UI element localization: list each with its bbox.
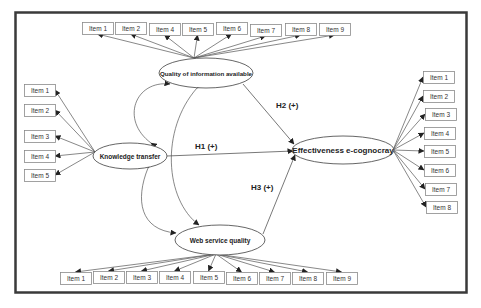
quality-loading-2 (131, 34, 195, 58)
item-label: Item 5 (431, 148, 449, 155)
quality-loading-4 (194, 35, 198, 58)
quality-loading-7 (194, 35, 301, 58)
item-label: Item 9 (326, 26, 344, 33)
web-indicator-item: Item 9 (327, 273, 358, 285)
item-label: Item 1 (89, 25, 107, 32)
item-label: Item 8 (299, 275, 317, 282)
construct-label: Effectiveness e-cognocray (292, 146, 394, 155)
hypothesis-label-h3: H3 (+) (251, 183, 274, 192)
effectiveness-indicator-item: Item 2 (424, 91, 455, 103)
item-label: Item 2 (100, 274, 118, 281)
item-label: Item 8 (433, 204, 451, 211)
quality-indicator-item: Item 8 (286, 24, 317, 36)
quality-indicator-item: Item 2 (116, 23, 147, 35)
path-h1-knowledge-to-effectiveness (167, 151, 293, 156)
web-indicator-item: Item 1 (61, 273, 92, 285)
item-label: Item 3 (432, 111, 450, 118)
item-label: Item 3 (31, 133, 49, 140)
covariance-quality-knowledge (134, 84, 170, 143)
web-indicator-item: Item 4 (160, 272, 191, 284)
item-label: Item 6 (223, 25, 241, 32)
effectiveness-indicator-item: Item 1 (424, 72, 455, 84)
covariance-knowledge-web (141, 168, 176, 233)
quality-indicator-item: Item 6 (217, 23, 248, 35)
item-label: Item 7 (266, 275, 284, 282)
quality-loading-8 (194, 35, 335, 58)
web-loading-7 (216, 254, 275, 272)
effectiveness-indicator-item: Item 8 (427, 202, 458, 214)
effectiveness-loading-7 (393, 150, 425, 189)
construct-label: Web service quality (190, 237, 251, 245)
quality-indicator-item: Item 1 (83, 23, 114, 35)
construct-quality: Quality of information available (159, 58, 253, 88)
web-indicator-item: Item 6 (227, 273, 258, 285)
item-label: Item 1 (430, 74, 448, 81)
effectiveness-indicator-item: Item 6 (425, 165, 456, 177)
construct-web: Web service quality (175, 225, 265, 255)
effectiveness-indicator-item: Item 4 (425, 128, 456, 140)
path-h3-web-to-effectiveness (263, 155, 295, 234)
effectiveness-loading-5 (393, 150, 424, 151)
item-label: Item 2 (430, 93, 448, 100)
effectiveness-indicator-item: Item 7 (426, 184, 457, 196)
web-indicator-item: Item 3 (127, 272, 158, 284)
construct-effectiveness: Effectiveness e-cognocray (292, 136, 394, 164)
hypothesis-labels: H1 (+)H2 (+)H3 (+) (195, 101, 299, 192)
item-label: Item 2 (122, 25, 140, 32)
web-indicator-item: Item 2 (94, 272, 125, 284)
item-label: Item 1 (67, 275, 85, 282)
item-label: Item 6 (233, 275, 251, 282)
web-indicator-item: Item 5 (194, 272, 225, 284)
web-loading-2 (109, 254, 217, 271)
construct-label: Knowledge transfer (100, 153, 161, 161)
effectiveness-loading-3 (393, 114, 425, 150)
knowledge-loading-3 (55, 136, 95, 152)
effectiveness-loading-1 (393, 77, 423, 150)
latent-constructs: Quality of information availableKnowledg… (93, 58, 394, 255)
knowledge-indicator-item: Item 1 (25, 85, 56, 97)
item-label: Item 7 (432, 186, 450, 193)
structural-model-diagram: Item 1Item 2Item 4Item 5Item 6Item 7Item… (0, 0, 481, 308)
knowledge-indicator-item: Item 3 (25, 131, 56, 143)
item-label: Item 5 (189, 26, 207, 33)
item-label: Item 9 (333, 275, 351, 282)
covariance-quality-web (171, 88, 199, 225)
path-h2-quality-to-effectiveness (243, 84, 294, 144)
web-loading-9 (216, 254, 342, 272)
knowledge-indicator-item: Item 2 (25, 105, 56, 117)
item-label: Item 6 (431, 167, 449, 174)
knowledge-loading-1 (55, 90, 95, 152)
item-label: Item 4 (156, 26, 174, 33)
item-label: Item 1 (31, 87, 49, 94)
construct-label: Quality of information available (160, 70, 253, 77)
quality-indicator-item: Item 5 (183, 24, 214, 36)
item-label: Item 4 (31, 153, 49, 160)
item-label: Item 7 (257, 27, 275, 34)
knowledge-loading-2 (55, 110, 95, 152)
web-indicator-item: Item 8 (293, 273, 324, 285)
item-label: Item 4 (431, 130, 449, 137)
hypothesis-label-h2: H2 (+) (276, 101, 299, 110)
quality-indicator-item: Item 4 (150, 24, 181, 36)
item-label: Item 4 (166, 274, 184, 281)
quality-indicator-item: Item 7 (251, 25, 282, 37)
item-label: Item 3 (133, 274, 151, 281)
item-label: Item 5 (200, 274, 218, 281)
quality-loading-6 (194, 36, 266, 58)
item-label: Item 2 (31, 107, 49, 114)
item-label: Item 5 (31, 172, 49, 179)
effectiveness-indicator-item: Item 5 (425, 146, 456, 158)
quality-loading-1 (98, 34, 195, 58)
item-label: Item 8 (292, 26, 310, 33)
construct-knowledge: Knowledge transfer (93, 143, 167, 169)
effectiveness-loading-8 (393, 150, 426, 207)
web-loading-8 (216, 254, 308, 272)
knowledge-indicator-item: Item 4 (25, 151, 56, 163)
knowledge-indicator-item: Item 5 (25, 170, 56, 182)
web-indicator-item: Item 7 (260, 273, 291, 285)
effectiveness-indicator-item: Item 3 (426, 109, 457, 121)
effectiveness-loading-6 (393, 150, 424, 170)
hypothesis-label-h1: H1 (+) (195, 142, 218, 151)
quality-loading-5 (194, 34, 232, 58)
quality-indicator-item: Item 9 (320, 24, 351, 36)
